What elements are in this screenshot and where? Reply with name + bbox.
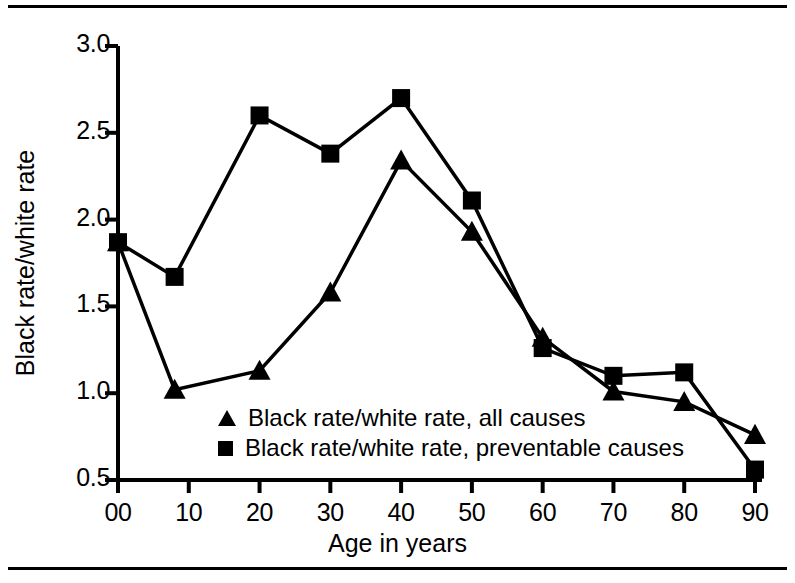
y-tick-label: 1.0 bbox=[44, 376, 110, 405]
y-tick-label: 1.5 bbox=[44, 289, 110, 318]
y-axis-title: Black rate/white rate bbox=[11, 150, 39, 377]
x-tick-label: 70 bbox=[573, 498, 653, 527]
data-point-square bbox=[604, 367, 622, 385]
data-point-square bbox=[746, 461, 764, 479]
legend-label-preventable-causes: Black rate/white rate, preventable cause… bbox=[245, 434, 684, 462]
x-axis-title: Age in years bbox=[0, 529, 795, 558]
data-point-square bbox=[166, 268, 184, 286]
figure-container: Black rate/white rate 0.51.01.52.02.53.0… bbox=[0, 0, 795, 583]
y-tick-label: 0.5 bbox=[44, 463, 110, 492]
x-tick-label: 00 bbox=[78, 498, 158, 527]
x-tick-label: 60 bbox=[503, 498, 583, 527]
data-point-square bbox=[463, 192, 481, 210]
x-tick-label: 30 bbox=[290, 498, 370, 527]
x-tick-label: 80 bbox=[644, 498, 724, 527]
chart-plot-area: Black rate/white rate bbox=[0, 0, 795, 583]
x-tick-label: 50 bbox=[432, 498, 512, 527]
legend-item-preventable-causes: Black rate/white rate, preventable cause… bbox=[218, 434, 684, 462]
y-tick-label: 2.0 bbox=[44, 203, 110, 232]
data-point-triangle bbox=[390, 150, 412, 170]
legend-item-all-causes: Black rate/white rate, all causes bbox=[218, 404, 586, 432]
y-tick-label: 2.5 bbox=[44, 116, 110, 145]
data-point-square bbox=[321, 145, 339, 163]
square-marker-icon bbox=[218, 441, 233, 456]
data-point-square bbox=[534, 339, 552, 357]
y-tick-label: 3.0 bbox=[44, 29, 110, 58]
triangle-marker-icon bbox=[218, 410, 236, 426]
legend-label-all-causes: Black rate/white rate, all causes bbox=[248, 404, 586, 432]
x-tick-label: 10 bbox=[149, 498, 229, 527]
data-point-square bbox=[392, 89, 410, 107]
x-tick-label: 40 bbox=[361, 498, 441, 527]
data-point-square bbox=[251, 106, 269, 124]
x-tick-label: 90 bbox=[715, 498, 795, 527]
data-point-square bbox=[675, 363, 693, 381]
data-point-triangle bbox=[319, 282, 341, 302]
data-point-square bbox=[109, 233, 127, 251]
x-tick-label: 20 bbox=[220, 498, 300, 527]
data-point-triangle bbox=[744, 424, 766, 444]
